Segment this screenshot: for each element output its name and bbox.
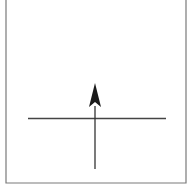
diagram-canvas: [0, 0, 193, 186]
diagram-svg: [0, 0, 193, 186]
arrow-up-icon: [89, 83, 101, 107]
